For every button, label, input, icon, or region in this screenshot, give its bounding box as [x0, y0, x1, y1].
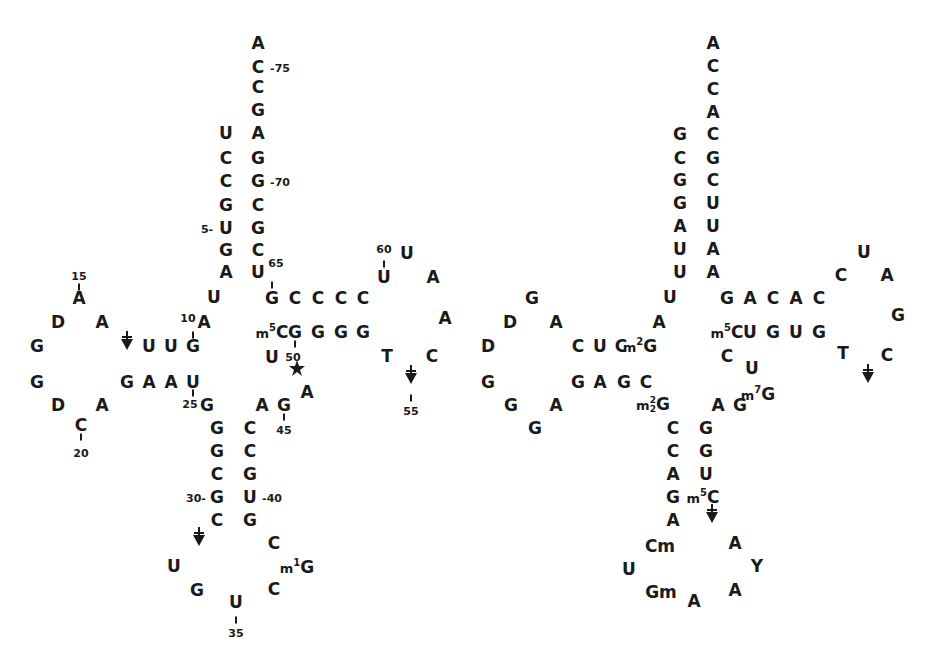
nucleotide: D: [51, 397, 65, 414]
nucleotide: C: [667, 443, 679, 460]
nucleotide: A: [251, 125, 264, 142]
nucleotide: C: [721, 348, 733, 365]
nucleotide: C: [572, 338, 584, 355]
nucleotide: G: [720, 290, 734, 307]
nucleotide: U: [745, 360, 759, 377]
nucleotide: G: [699, 420, 713, 437]
nucleotide: U: [622, 561, 636, 578]
position-label: 10: [180, 313, 195, 324]
nucleotide: C: [252, 59, 264, 76]
nucleotide: A: [219, 264, 232, 281]
nucleotide: G: [673, 126, 687, 143]
nucleotide: G: [120, 374, 134, 391]
nucleotide: C: [674, 150, 686, 167]
position-label: 55: [403, 406, 418, 417]
nucleotide: C: [220, 173, 232, 190]
nucleotide: G: [528, 420, 542, 437]
cleavage-arrow-icon: [120, 331, 134, 355]
position-label: 35: [228, 628, 243, 639]
nucleotide: A: [72, 290, 85, 307]
nucleotide: U: [673, 264, 687, 281]
nucleotide: G: [265, 290, 279, 307]
nucleotide: A: [142, 374, 155, 391]
nucleotide: C: [244, 443, 256, 460]
nucleotide: G: [251, 102, 265, 119]
nucleotide: C: [244, 420, 256, 437]
nucleotide: A: [743, 290, 756, 307]
nucleotide: G: [673, 195, 687, 212]
nucleotide: T: [837, 345, 849, 362]
nucleotide: Cm: [645, 538, 675, 555]
nucleotide: G: [699, 443, 713, 460]
nucleotide: A: [300, 384, 313, 401]
nucleotide: G: [190, 582, 204, 599]
nucleotide: G: [766, 324, 780, 341]
nucleotide: A: [789, 290, 802, 307]
position-tick: [192, 390, 194, 397]
cleavage-arrow-icon: [705, 504, 719, 528]
nucleotide: C: [211, 512, 223, 529]
nucleotide: G: [210, 443, 224, 460]
nucleotide: C: [335, 290, 347, 307]
nucleotide: G: [666, 489, 680, 506]
nucleotide: A: [706, 241, 719, 258]
nucleotide: A: [549, 397, 562, 414]
position-tick: [192, 332, 194, 339]
nucleotide: U: [857, 244, 871, 261]
position-tick: [271, 282, 273, 289]
position-tick: [283, 414, 285, 421]
position-tick: [294, 341, 296, 348]
nucleotide: Gm: [645, 584, 677, 601]
nucleotide: C: [835, 267, 847, 284]
nucleotide: U: [167, 558, 181, 575]
nucleotide: U: [229, 594, 243, 611]
nucleotide: A: [426, 269, 439, 286]
nucleotide: m5C: [256, 324, 289, 341]
position-label: -70: [270, 177, 290, 188]
position-label: 15: [71, 271, 86, 282]
nucleotide: G: [356, 324, 370, 341]
nucleotide: m1G: [280, 559, 314, 576]
nucleotide: G: [30, 374, 44, 391]
position-tick: [78, 284, 80, 291]
nucleotide: C: [767, 290, 779, 307]
nucleotide: G: [243, 466, 257, 483]
nucleotide: A: [197, 314, 210, 331]
nucleotide: U: [207, 289, 221, 306]
nucleotide: G: [706, 150, 720, 167]
nucleotide: D: [51, 314, 65, 331]
position-tick: [410, 395, 412, 402]
nucleotide: A: [95, 314, 108, 331]
nucleotide: G: [481, 374, 495, 391]
nucleotide: D: [503, 314, 517, 331]
nucleotide: C: [707, 126, 719, 143]
nucleotide: G: [525, 290, 539, 307]
trna-cloverleaf-diagram: ACCGAGGCGCUUCCGUGAUAGUUADAGGDACGAAUGGGCG…: [0, 0, 934, 664]
nucleotide: U: [593, 338, 607, 355]
cleavage-arrow-icon: [861, 364, 875, 388]
nucleotide: G: [30, 338, 44, 355]
nucleotide: G: [673, 172, 687, 189]
nucleotide: A: [438, 310, 451, 327]
nucleotide: U: [219, 125, 233, 142]
nucleotide: G: [251, 150, 265, 167]
nucleotide: Y: [751, 558, 763, 575]
nucleotide: C: [881, 347, 893, 364]
nucleotide: A: [666, 466, 679, 483]
nucleotide: A: [706, 35, 719, 52]
nucleotide: U: [706, 195, 720, 212]
nucleotide: m22G: [636, 396, 670, 414]
nucleotide: U: [699, 466, 713, 483]
nucleotide: G: [571, 374, 585, 391]
nucleotide: C: [252, 197, 264, 214]
position-label: -75: [270, 63, 290, 74]
nucleotide: m5C: [687, 489, 720, 506]
nucleotide: G: [251, 173, 265, 190]
nucleotide: U: [789, 324, 803, 341]
nucleotide: G: [219, 242, 233, 259]
nucleotide: C: [813, 290, 825, 307]
position-label: -40: [262, 493, 282, 504]
nucleotide: C: [252, 242, 264, 259]
nucleotide: G: [277, 397, 291, 414]
nucleotide: A: [251, 35, 264, 52]
